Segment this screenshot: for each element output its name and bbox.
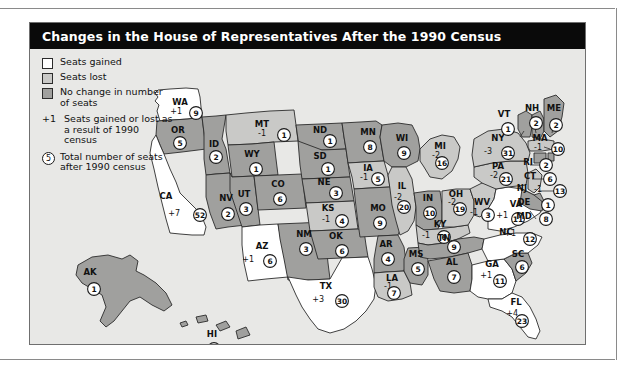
svg-text:ME: ME [547, 103, 561, 113]
svg-text:MD: MD [516, 211, 532, 221]
svg-text:NE: NE [318, 177, 331, 187]
svg-text:4: 4 [385, 255, 390, 264]
svg-text:MS: MS [409, 249, 424, 259]
svg-text:9: 9 [451, 243, 456, 252]
svg-text:2: 2 [225, 210, 230, 219]
state-label-hi: HI2 [207, 329, 221, 344]
legend-total-symbol: 5 [42, 152, 55, 165]
legend-item-lost: Seats lost [42, 72, 174, 84]
svg-text:+1: +1 [242, 255, 254, 264]
svg-text:RI: RI [523, 157, 533, 167]
svg-text:1: 1 [253, 165, 258, 174]
svg-text:4: 4 [339, 217, 344, 226]
svg-text:MI: MI [434, 141, 446, 151]
legend-note-total: 5 Total number of seats after 1990 censu… [42, 152, 174, 173]
svg-text:NV: NV [219, 193, 233, 203]
svg-text:1: 1 [325, 165, 330, 174]
svg-text:CO: CO [271, 179, 284, 189]
svg-text:AZ: AZ [256, 241, 269, 251]
svg-text:MA: MA [532, 133, 547, 143]
svg-text:IL: IL [398, 181, 407, 191]
svg-text:30: 30 [337, 297, 347, 306]
legend-total-text: Total number of seats after 1990 census [60, 152, 174, 173]
svg-text:7: 7 [451, 273, 456, 282]
svg-text:MT: MT [255, 119, 269, 129]
legend-note-change: +1 Seats gained or lost as a result of 1… [42, 114, 174, 146]
svg-text:GA: GA [485, 259, 499, 269]
svg-text:13: 13 [555, 187, 565, 196]
svg-text:NH: NH [525, 103, 539, 113]
svg-text:1: 1 [505, 125, 510, 134]
svg-text:SD: SD [313, 151, 326, 161]
legend-label-same: No change in number of seats [60, 87, 174, 108]
svg-text:-2: -2 [490, 171, 498, 180]
state-wi[interactable] [380, 123, 420, 167]
svg-text:-1: -1 [534, 143, 542, 152]
svg-text:ND: ND [313, 125, 327, 135]
svg-text:3: 3 [485, 211, 490, 220]
svg-text:12: 12 [525, 235, 535, 244]
svg-text:2: 2 [533, 119, 538, 128]
svg-text:9: 9 [377, 219, 382, 228]
svg-text:6: 6 [267, 257, 272, 266]
svg-text:SC: SC [512, 249, 524, 259]
svg-text:23: 23 [517, 317, 527, 326]
svg-text:MN: MN [360, 127, 376, 137]
svg-text:2: 2 [213, 153, 218, 162]
legend-change-text: Seats gained or lost as a result of 1990… [64, 114, 174, 146]
svg-text:-1: -1 [534, 185, 542, 194]
svg-text:-3: -3 [484, 147, 492, 156]
svg-text:UT: UT [238, 189, 251, 199]
svg-text:WA: WA [172, 97, 188, 107]
svg-text:1: 1 [327, 137, 332, 146]
svg-text:3: 3 [333, 189, 338, 198]
svg-text:-1: -1 [322, 215, 330, 224]
svg-text:9: 9 [401, 149, 406, 158]
legend-label-lost: Seats lost [60, 72, 107, 83]
svg-text:16: 16 [437, 159, 447, 168]
svg-text:2: 2 [553, 121, 558, 130]
legend-item-gained: Seats gained [42, 57, 174, 69]
svg-text:21: 21 [501, 175, 511, 184]
svg-text:WI: WI [396, 133, 409, 143]
svg-text:10: 10 [425, 209, 435, 218]
svg-text:3: 3 [243, 205, 248, 214]
svg-text:52: 52 [195, 211, 205, 220]
title-bar: Changes in the House of Representatives … [30, 23, 585, 49]
svg-text:8: 8 [543, 215, 548, 224]
svg-text:20: 20 [399, 203, 409, 212]
svg-text:5: 5 [177, 139, 182, 148]
svg-text:KY: KY [434, 219, 448, 229]
svg-text:+1: +1 [480, 271, 492, 280]
svg-text:6: 6 [547, 175, 552, 184]
svg-text:IN: IN [423, 193, 433, 203]
svg-text:11: 11 [495, 277, 505, 286]
svg-text:HI: HI [207, 329, 217, 339]
svg-text:AK: AK [83, 267, 97, 277]
svg-text:+1: +1 [504, 229, 516, 238]
legend-item-same: No change in number of seats [42, 87, 174, 108]
svg-text:MO: MO [370, 203, 386, 213]
svg-text:+3: +3 [312, 295, 324, 304]
svg-text:WY: WY [244, 149, 260, 159]
svg-text:OK: OK [329, 231, 343, 241]
svg-text:PA: PA [492, 161, 504, 171]
map-figure: Changes in the House of Representatives … [0, 0, 617, 372]
svg-text:NJ: NJ [517, 183, 527, 193]
svg-text:+7: +7 [168, 209, 180, 218]
legend-swatch-lost-icon [42, 73, 53, 84]
svg-text:FL: FL [510, 297, 522, 307]
svg-text:CA: CA [160, 191, 173, 201]
svg-text:IA: IA [363, 163, 373, 173]
svg-text:10: 10 [553, 145, 563, 154]
svg-text:-1: -1 [258, 129, 266, 138]
svg-text:1: 1 [545, 201, 550, 210]
svg-text:DE: DE [518, 197, 531, 207]
svg-text:1: 1 [281, 131, 286, 140]
svg-text:TN: TN [438, 233, 451, 243]
svg-text:-1: -1 [470, 208, 478, 217]
seat-total-circle-hi [208, 343, 221, 344]
legend-swatch-gained-icon [42, 58, 53, 69]
svg-text:-2: -2 [394, 193, 402, 202]
map-card: Changes in the House of Representatives … [29, 22, 586, 345]
